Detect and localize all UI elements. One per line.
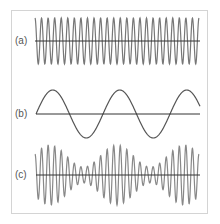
waveforms — [0, 0, 220, 224]
